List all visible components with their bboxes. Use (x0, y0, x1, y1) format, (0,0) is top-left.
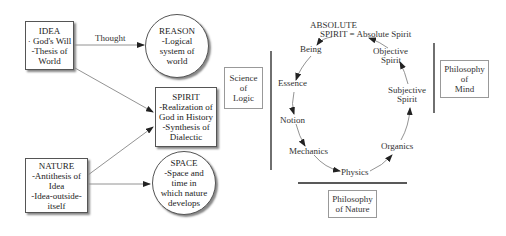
group-science-of-logic: Science of Logic (224, 67, 263, 109)
edge-idea-spirit (75, 68, 153, 112)
idea-line: -Thesis of (31, 46, 67, 56)
space-line: develops (168, 198, 200, 208)
node-mechanics: Mechanics (289, 146, 328, 156)
idea-line: World (38, 56, 60, 66)
group-label-line: Logic (233, 93, 254, 103)
nature-line: Idea (49, 181, 65, 191)
node-organics: Organics (381, 141, 413, 151)
reason-title: REASON (159, 26, 195, 36)
node-essence: Essence (278, 78, 307, 88)
group-label-line: of Nature (335, 204, 369, 214)
spirit-line: God in History (159, 112, 213, 122)
arc-being-essence (296, 56, 311, 80)
arc-essence-notion (293, 92, 295, 114)
group-label-line: Philosophy (444, 64, 485, 74)
arc-mechanics-physics (314, 155, 340, 171)
spirit-title: SPIRIT (172, 92, 200, 102)
spirit-node: SPIRIT -Realization of God in History -S… (155, 87, 217, 147)
reason-line: -Logical (162, 36, 193, 46)
reason-line: world (167, 56, 188, 66)
group-philosophy-of-nature: Philosophy of Nature (328, 190, 377, 218)
nature-line: itself (48, 201, 66, 211)
reason-line: system of (160, 46, 195, 56)
arc-notion-mechanics (296, 124, 305, 146)
node-being: Being (300, 44, 322, 54)
reason-node: REASON -Logical system of world (145, 14, 209, 78)
edge-label-thought: Thought (95, 33, 126, 43)
node-physics: Physics (341, 167, 369, 177)
node-notion: Notion (280, 115, 305, 125)
absolute-label-line2: SPIRIT = Absolute Spirit (320, 29, 411, 39)
spirit-line: -Synthesis of (162, 122, 209, 132)
space-node: SPACE -Space and time in which nature de… (152, 151, 216, 215)
group-philosophy-of-mind: Philosophy of Mind (440, 60, 489, 98)
space-line: which nature (161, 188, 208, 198)
arc-physics-organics (370, 155, 392, 171)
group-label-line: Mind (455, 84, 475, 94)
space-line: -Space and (164, 168, 204, 178)
group-label-line: of (240, 83, 248, 93)
space-title: SPACE (170, 158, 197, 168)
spirit-line: -Realization of (159, 102, 213, 112)
group-label-line: Science (230, 73, 258, 83)
arc-organics-subjective (401, 108, 410, 140)
nature-title: NATURE (39, 161, 75, 171)
group-label-line: Philosophy (332, 194, 373, 204)
spirit-line: Dialectic (170, 132, 202, 142)
nature-node: NATURE -Antithesis of Idea -Idea-outside… (25, 158, 88, 213)
space-line: time in (171, 178, 196, 188)
node-objective-spirit-2: Spirit (381, 55, 401, 65)
edge-nature-spirit (88, 127, 153, 175)
idea-line: · God's Will (28, 36, 72, 46)
nature-line: -Antithesis of (32, 171, 81, 181)
arc-subjective-objective (400, 62, 408, 84)
node-subjective-spirit-2: Spirit (397, 94, 417, 104)
nature-line: -Idea-outside- (31, 191, 81, 201)
group-label-line: of (461, 74, 469, 84)
idea-node: IDEA · God's Will -Thesis of World (25, 21, 74, 70)
idea-title: IDEA (39, 26, 61, 36)
